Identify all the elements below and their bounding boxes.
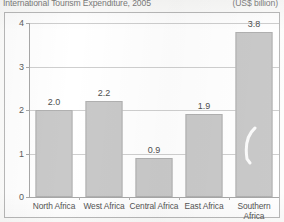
bar-value-label: 0.9	[148, 145, 161, 155]
bar-group[interactable]: 3.8	[229, 23, 279, 197]
x-tick	[179, 197, 180, 200]
bar-series: 2.02.20.91.93.8	[29, 23, 279, 197]
scanned-page: International Tourism Expenditure, 2005 …	[0, 0, 284, 222]
x-tick	[129, 197, 130, 200]
bar[interactable]	[136, 158, 173, 197]
chart-unit-label: (US$ billion)	[232, 0, 278, 9]
y-tick-label: 0	[19, 193, 24, 202]
gridline	[29, 197, 279, 198]
x-category-label: Central Africa	[129, 201, 179, 211]
bar-group[interactable]: 2.0	[29, 23, 79, 197]
x-axis-category-labels: North AfricaWest AfricaCentral AfricaEas…	[29, 201, 279, 222]
y-tick-label: 2	[19, 106, 24, 115]
x-category-label: East Africa	[179, 201, 229, 211]
bar[interactable]	[186, 114, 223, 197]
y-tick-label: 4	[19, 19, 24, 28]
bar-value-label: 3.8	[248, 19, 261, 29]
bar-value-label: 1.9	[198, 101, 211, 111]
x-category-label: North Africa	[29, 201, 79, 211]
x-tick	[79, 197, 80, 200]
bar-group[interactable]: 0.9	[129, 23, 179, 197]
bar-value-label: 2.2	[98, 88, 111, 98]
chart-frame: 01234 2.02.20.91.93.8 North AfricaWest A…	[4, 12, 280, 218]
y-tick-label: 1	[19, 149, 24, 158]
page-title: International Tourism Expenditure, 2005	[3, 0, 151, 9]
y-tick	[26, 197, 29, 198]
x-tick	[229, 197, 230, 200]
bar-group[interactable]: 1.9	[179, 23, 229, 197]
plot-area: 01234 2.02.20.91.93.8	[29, 23, 279, 197]
bar[interactable]	[86, 101, 123, 197]
bar[interactable]	[36, 110, 73, 197]
x-category-label: Southern Africa	[229, 201, 279, 221]
x-category-label: West Africa	[79, 201, 129, 211]
chart-header: International Tourism Expenditure, 2005 …	[0, 0, 284, 10]
bar[interactable]	[236, 32, 273, 197]
y-tick-label: 3	[19, 62, 24, 71]
bar-value-label: 2.0	[48, 97, 61, 107]
bar-group[interactable]: 2.2	[79, 23, 129, 197]
